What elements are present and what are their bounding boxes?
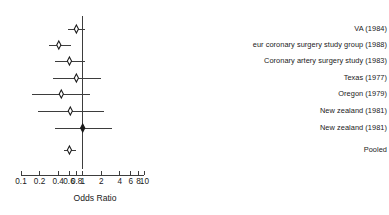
x-axis-title: Odds Ratio	[0, 193, 190, 204]
study-label: Texas (1977)	[344, 73, 387, 82]
point-estimate-marker	[59, 90, 63, 98]
x-axis-tick-label: 1	[80, 177, 85, 187]
forest-plot: VA (1984)eur coronary surgery study grou…	[0, 0, 389, 215]
forest-row	[32, 90, 90, 98]
point-estimate-marker	[74, 25, 78, 33]
forest-row	[64, 146, 76, 154]
x-axis-tick-label: 6	[128, 177, 133, 187]
point-estimate-marker	[74, 74, 78, 82]
forest-row	[55, 124, 113, 132]
study-label: Oregon (1979)	[338, 89, 387, 98]
forest-row	[55, 57, 85, 65]
x-axis-tick-label: 2	[99, 177, 104, 187]
study-label: VA (1984)	[354, 24, 387, 33]
study-label: New zealand (1981)	[320, 123, 387, 132]
x-axis-tick-label: 0.1	[15, 177, 26, 187]
point-estimate-marker	[57, 41, 61, 49]
study-label: eur coronary surgery study group (1988)	[253, 40, 387, 49]
x-axis-tick-label: 10	[140, 177, 149, 187]
pooled-label: Pooled	[364, 145, 387, 154]
x-axis-tick-label: 4	[118, 177, 123, 187]
point-estimate-marker	[67, 57, 71, 65]
study-label: Coronary artery surgery study (1983)	[264, 56, 387, 65]
forest-row	[53, 74, 101, 82]
study-label-column: VA (1984)eur coronary surgery study grou…	[205, 0, 387, 170]
point-estimate-marker	[81, 124, 85, 132]
point-estimate-marker	[68, 107, 72, 115]
x-axis-tick-label: 0.4	[52, 177, 63, 187]
pooled-effect-marker	[67, 146, 71, 154]
x-axis-tick-label: 0.2	[34, 177, 45, 187]
forest-row	[38, 107, 104, 115]
study-label: New zealand (1981)	[320, 106, 387, 115]
forest-row	[49, 41, 71, 49]
